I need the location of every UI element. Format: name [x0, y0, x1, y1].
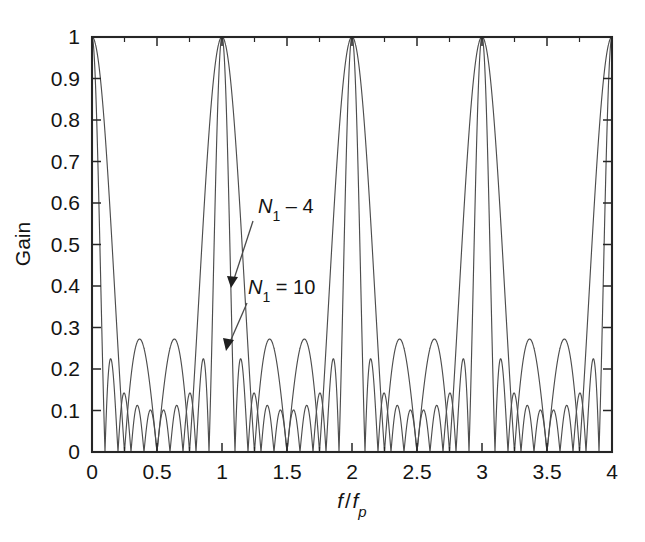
x-title-slash: /	[343, 489, 352, 512]
y-tick-label: 0	[68, 440, 80, 463]
curve-n1-10	[92, 37, 612, 452]
y-tick-label: 0.9	[51, 67, 80, 90]
x-axis-title-text: f / fp	[337, 489, 366, 520]
arrowhead-n1-4	[227, 276, 238, 288]
x-tick-label: 0.5	[142, 460, 171, 483]
plot-canvas: 00.511.522.533.54 00.10.20.30.40.50.60.7…	[0, 0, 645, 542]
n1-4-suffix: – 4	[280, 195, 313, 217]
y-tick-label: 0.8	[51, 108, 80, 131]
n1-10-symbol: N	[248, 276, 263, 298]
x-axis-title: f / fp	[337, 489, 366, 520]
y-tick-labels: 00.10.20.30.40.50.60.70.80.91	[51, 25, 81, 463]
n1-10-suffix: = 10	[270, 276, 315, 298]
y-tick-label: 0.1	[51, 399, 80, 422]
x-tick-label: 2.5	[402, 460, 431, 483]
x-tick-label: 0	[86, 460, 98, 483]
gain-vs-normalized-frequency-figure: 00.511.522.533.54 00.10.20.30.40.50.60.7…	[0, 0, 645, 542]
n1-4-label: N1 – 4	[258, 195, 314, 224]
y-tick-label: 0.6	[51, 191, 80, 214]
x-tick-label: 2	[346, 460, 358, 483]
y-tick-label: 1	[68, 25, 80, 48]
x-title-denominator-sub: p	[357, 503, 366, 520]
n1-4-symbol: N	[258, 195, 273, 217]
y-tick-label: 0.4	[51, 274, 81, 297]
x-tick-labels: 00.511.522.533.54	[86, 460, 618, 483]
n1-10-label: N1 = 10	[248, 276, 315, 305]
n1-10-subscript: 1	[262, 289, 270, 305]
axes-frame	[92, 37, 612, 452]
y-tick-label: 0.7	[51, 150, 80, 173]
n1-4-subscript: 1	[272, 208, 280, 224]
curves-group	[92, 37, 612, 452]
x-tick-label: 3	[476, 460, 488, 483]
x-tick-label: 4	[606, 460, 618, 483]
leader-line-n1-10	[230, 303, 247, 342]
y-axis-title: Gain	[11, 222, 34, 266]
y-tick-label: 0.2	[51, 357, 80, 380]
x-tick-label: 3.5	[532, 460, 561, 483]
x-tick-label: 1	[216, 460, 228, 483]
tick-marks	[92, 37, 612, 452]
curve-annotations: N1 – 4 N1 = 10	[223, 195, 315, 351]
curve-n1-4	[92, 37, 612, 452]
y-tick-label: 0.3	[51, 316, 80, 339]
axis-box	[92, 37, 612, 452]
y-tick-label: 0.5	[51, 233, 80, 256]
x-tick-label: 1.5	[272, 460, 301, 483]
